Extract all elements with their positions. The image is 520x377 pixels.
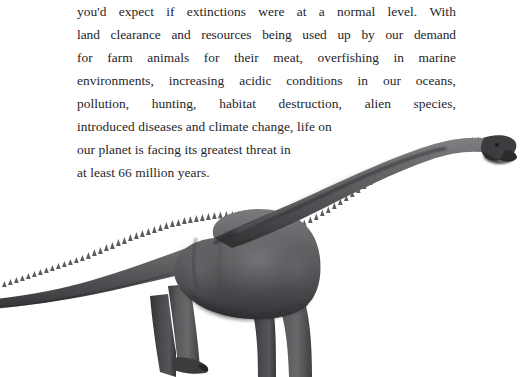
word: their [234,46,259,69]
word: extinctions [187,0,246,23]
word: destruction, [279,92,342,115]
word: environments, [77,69,154,92]
word: meat, [273,46,303,69]
word: habitat [219,92,256,115]
word: were [258,0,284,23]
word: expect [119,0,154,23]
text-line-2: land clearance and resources being used … [77,23,456,46]
word: acidic [239,69,271,92]
word: up [337,23,350,46]
word: With [429,0,455,23]
text-line-3: for farm animals for their meat, overfis… [77,46,456,69]
word: farm [107,46,132,69]
text-line-8: at least 66 million years. [77,161,456,184]
word: normal [337,0,375,23]
word: used [302,23,326,46]
word: our [383,69,401,92]
word: at [297,0,307,23]
word: oceans, [416,69,456,92]
word: hunting, [152,92,197,115]
word: alien [365,92,391,115]
word: a [319,0,325,23]
word: you'd [77,0,106,23]
word: marine [419,46,456,69]
word: land [77,23,100,46]
word: for [77,46,93,69]
word: animals [147,46,189,69]
text-line-6: introduced diseases and climate change, … [77,115,456,138]
word: in [358,69,369,92]
word: pollution, [77,92,129,115]
word: resources [201,23,251,46]
dino-hip-mass [280,242,316,290]
word: by [361,23,374,46]
text-line-4: environments, increasing acidic conditio… [77,69,456,92]
text-line-1: you'd expect if extinctions were at a no… [77,0,456,23]
word: increasing [169,69,225,92]
word: and [171,23,190,46]
body-paragraph: you'd expect if extinctions were at a no… [77,0,456,184]
word: in [393,46,404,69]
word: level. [388,0,418,23]
word: for [204,46,220,69]
word: if [166,0,174,23]
word: demand [414,23,456,46]
word: overfishing [317,46,379,69]
text-line-5: pollution, hunting, habitat destruction,… [77,92,456,115]
word: our [385,23,403,46]
word: being [262,23,292,46]
dino-shoulder-mass [176,242,224,294]
dino-eye [495,143,499,147]
word: species, [414,92,456,115]
word: conditions [286,69,342,92]
book-page: you'd expect if extinctions were at a no… [0,0,520,377]
word: clearance [111,23,161,46]
text-line-7: our planet is facing its greatest threat… [77,138,456,161]
